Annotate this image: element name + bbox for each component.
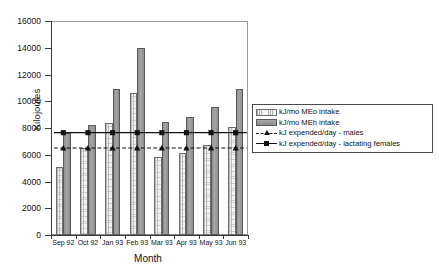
bar-meo-may-93 xyxy=(203,145,211,235)
y-axis-tick-label: 4000 xyxy=(0,178,41,187)
legend-label-males: kJ expended/day - males xyxy=(279,129,363,137)
bar-meo-jun-93 xyxy=(228,127,236,235)
bars-layer xyxy=(51,21,248,235)
legend-label-meo: kJ/mo MEo intake xyxy=(279,108,339,116)
y-axis-tick-label: 8000 xyxy=(0,124,41,133)
y-axis-tick-label: 12000 xyxy=(0,71,41,80)
square-marker-icon xyxy=(264,141,269,146)
bar-meo-oct-92 xyxy=(80,148,88,235)
bar-meo-mar-93 xyxy=(154,157,162,235)
bar-meo-sep-92 xyxy=(56,167,64,235)
bar-meh-may-93 xyxy=(211,107,219,235)
bar-meh-jun-93 xyxy=(236,89,244,235)
y-axis-tick-label: 10000 xyxy=(0,97,41,106)
legend-swatch-meo-icon xyxy=(256,109,277,116)
y-axis-tick-label: 2000 xyxy=(0,204,41,213)
bar-meh-apr-93 xyxy=(186,117,194,235)
bar-meh-oct-92 xyxy=(88,125,96,235)
bar-meh-sep-92 xyxy=(63,133,71,235)
x-axis-tick-label: Jun 93 xyxy=(220,239,252,247)
y-axis-title: Kilojoules xyxy=(31,30,42,190)
bar-meo-apr-93 xyxy=(179,153,187,235)
legend-item-expended-males: kJ expended/day - males xyxy=(256,128,429,138)
bar-meh-mar-93 xyxy=(162,122,170,235)
bar-meo-feb-93 xyxy=(130,93,138,235)
legend-item-meh-intake: kJ/mo MEh intake xyxy=(256,118,429,128)
legend-label-lactating-females: kJ expended/day - lactating females xyxy=(279,140,400,148)
bar-meh-feb-93 xyxy=(137,48,145,235)
chart-legend: kJ/mo MEo intake kJ/mo MEh intake kJ exp… xyxy=(252,104,433,153)
legend-item-expended-lactating-females: kJ expended/day - lactating females xyxy=(256,139,429,149)
bar-meo-jan-93 xyxy=(105,123,113,235)
legend-swatch-solid-square-icon xyxy=(256,140,277,147)
y-axis-tick-label: 16000 xyxy=(0,17,41,26)
y-axis-tick-label: 6000 xyxy=(0,151,41,160)
chart-container: Kilojoules Month 02000400060008000100001… xyxy=(0,0,439,271)
legend-swatch-dashed-triangle-icon xyxy=(256,130,277,137)
triangle-marker-icon xyxy=(264,130,270,135)
legend-swatch-meh-icon xyxy=(256,119,277,126)
y-axis-tick-label: 14000 xyxy=(0,44,41,53)
x-axis-title: Month xyxy=(48,253,248,264)
bar-meh-jan-93 xyxy=(113,89,121,235)
legend-label-meh: kJ/mo MEh intake xyxy=(279,119,339,127)
y-axis-tick-label: 0 xyxy=(0,231,41,240)
legend-item-meo-intake: kJ/mo MEo intake xyxy=(256,107,429,117)
